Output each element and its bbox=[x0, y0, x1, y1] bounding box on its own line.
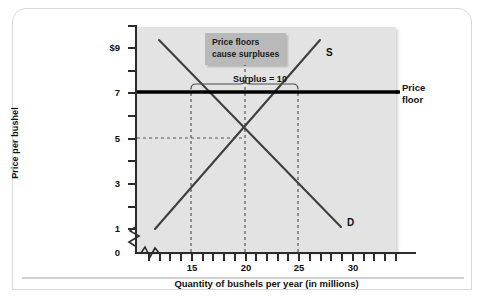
y-tick-label-1: 1 bbox=[92, 223, 120, 234]
x-tick-label-30: 30 bbox=[338, 262, 368, 273]
callout-price-floors: Price floors cause surpluses bbox=[205, 33, 286, 65]
y-tick-top bbox=[128, 25, 135, 27]
x-tick-13 bbox=[169, 254, 171, 261]
x-tick-25 bbox=[298, 254, 300, 261]
x-tick-34 bbox=[395, 254, 397, 261]
x-tick-14 bbox=[180, 254, 182, 261]
x-tick-32 bbox=[373, 254, 375, 261]
x-tick-22 bbox=[266, 254, 268, 261]
x-tick-11 bbox=[148, 254, 150, 261]
x-tick-30 bbox=[352, 254, 354, 261]
supply-demand-chart: $9 7 5 3 1 0 15 20 25 30 Pr bbox=[0, 0, 486, 301]
y-tick-1 bbox=[128, 228, 135, 230]
x-tick-28 bbox=[330, 254, 332, 261]
y-tick-label-3: 3 bbox=[92, 178, 120, 189]
x-tick-20 bbox=[245, 254, 247, 261]
figure-root: $9 7 5 3 1 0 15 20 25 30 Pr bbox=[0, 0, 486, 301]
demand-curve-label: D bbox=[347, 217, 354, 228]
y-tick-9 bbox=[128, 47, 135, 49]
y-tick-3 bbox=[128, 183, 135, 185]
x-tick-24 bbox=[287, 254, 289, 261]
y-axis bbox=[135, 25, 137, 254]
x-tick-18 bbox=[223, 254, 225, 261]
x-axis-title: Quantity of bushels per year (in million… bbox=[137, 278, 396, 289]
x-tick-26 bbox=[309, 254, 311, 261]
y-tick-label-7: 7 bbox=[92, 87, 120, 98]
y-tick-8 bbox=[128, 70, 135, 72]
x-tick-label-25: 25 bbox=[284, 262, 314, 273]
x-tick-21 bbox=[255, 254, 257, 261]
x-tick-33 bbox=[384, 254, 386, 261]
y-tick-label-9: $9 bbox=[92, 42, 120, 53]
y-tick-4 bbox=[128, 160, 135, 162]
x-tick-15 bbox=[191, 254, 193, 261]
y-tick-6 bbox=[128, 115, 135, 117]
y-tick-label-5: 5 bbox=[92, 133, 120, 144]
y-tick-2 bbox=[128, 206, 135, 208]
price-floor-label: Price floor bbox=[402, 82, 425, 106]
y-tick-5 bbox=[128, 138, 135, 140]
surplus-annotation: Surplus = 10 bbox=[205, 74, 315, 84]
x-tick-19 bbox=[234, 254, 236, 261]
y-tick-7 bbox=[128, 92, 135, 94]
x-tick-12 bbox=[159, 254, 161, 261]
x-tick-label-20: 20 bbox=[231, 262, 261, 273]
supply-curve-label: S bbox=[326, 47, 333, 58]
x-tick-17 bbox=[212, 254, 214, 261]
x-tick-label-15: 15 bbox=[177, 262, 207, 273]
x-tick-31 bbox=[363, 254, 365, 261]
x-tick-29 bbox=[341, 254, 343, 261]
x-tick-27 bbox=[320, 254, 322, 261]
x-tick-23 bbox=[277, 254, 279, 261]
y-axis-title: Price per bushel bbox=[10, 98, 20, 188]
x-tick-16 bbox=[202, 254, 204, 261]
y-tick-label-0: 0 bbox=[92, 247, 120, 258]
